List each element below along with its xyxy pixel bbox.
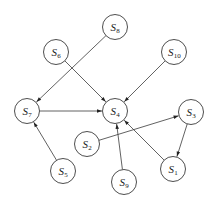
node-s7: S7	[15, 99, 40, 124]
node-subscript: 8	[116, 27, 120, 35]
node-subscript: 4	[116, 111, 120, 119]
node-subscript: 9	[125, 182, 129, 190]
node-s5: S5	[51, 159, 76, 184]
node-subscript: 2	[88, 144, 92, 152]
edge-s5-to-s7	[34, 122, 57, 160]
node-s8: S8	[103, 15, 128, 40]
node-s10: S10	[162, 40, 187, 65]
node-subscript: 7	[28, 111, 32, 119]
nodes-layer: S1S2S3S4S5S6S7S8S9S10	[15, 15, 204, 195]
node-subscript: 1	[174, 169, 178, 177]
node-s2: S2	[75, 132, 100, 157]
edge-s3-to-s1	[177, 124, 187, 157]
edge-s10-to-s4	[124, 61, 165, 102]
node-s6: S6	[44, 40, 69, 65]
edge-s6-to-s4	[65, 61, 106, 102]
node-subscript: 5	[64, 171, 68, 179]
node-subscript: 6	[57, 52, 61, 60]
directed-graph: S1S2S3S4S5S6S7S8S9S10	[0, 0, 215, 206]
node-s4: S4	[103, 99, 128, 124]
node-s1: S1	[161, 157, 186, 182]
node-s9: S9	[112, 170, 137, 195]
node-s3: S3	[179, 100, 204, 125]
edge-s9-to-s4	[117, 124, 123, 170]
node-subscript: 3	[192, 112, 196, 120]
node-subscript: 10	[174, 52, 182, 60]
